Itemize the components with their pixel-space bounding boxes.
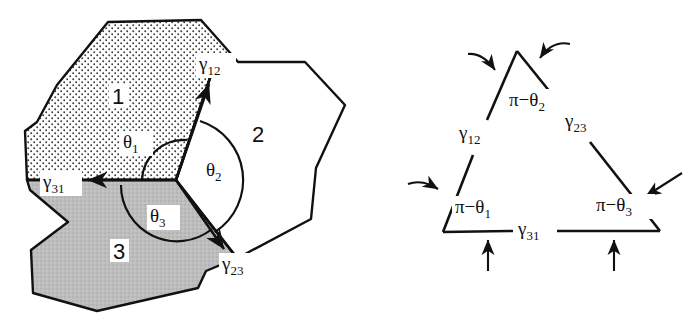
tri-angle-3-subscript: 3 [625,204,632,219]
tri-gamma-23-subscript: 23 [573,120,586,135]
gamma-12-subscript: 12 [207,63,220,78]
tri-angle-1-symbol: π−θ [455,196,484,217]
figure-container: 1 2 3 γ12 γ23 γ31 θ1 θ2 [0,0,686,317]
tri-angle-1-subscript: 1 [484,206,491,221]
theta-1-symbol: θ [123,131,132,152]
tri-angle-2-subscript: 2 [538,99,545,114]
theta-2-symbol: θ [206,159,215,180]
region-3-label: 3 [113,239,125,264]
theta-2-subscript: 2 [215,169,222,184]
tri-edge-gamma-31-left [443,231,513,232]
region-2-label: 2 [252,122,264,147]
tri-gamma-12-symbol: γ [458,122,467,143]
theta-3-symbol: θ [150,205,159,226]
tri-angle-3-symbol: π−θ [596,194,625,215]
theta-1-subscript: 1 [132,141,139,156]
theta-3-subscript: 3 [159,215,166,230]
region-1-label: 1 [112,84,124,109]
gamma-31-symbol: γ [42,171,51,192]
tri-gamma-31-subscript: 31 [526,228,539,243]
gamma-23-subscript: 23 [230,263,243,278]
diagram-svg: 1 2 3 γ12 γ23 γ31 θ1 θ2 [0,0,686,317]
tri-gamma-12-subscript: 12 [467,132,480,147]
gamma-31-subscript: 31 [51,181,64,196]
tri-angle-2-symbol: π−θ [509,89,538,110]
gamma-23-symbol: γ [221,253,230,274]
tri-gamma-31-symbol: γ [517,218,526,239]
gamma-12-symbol: γ [198,53,207,74]
